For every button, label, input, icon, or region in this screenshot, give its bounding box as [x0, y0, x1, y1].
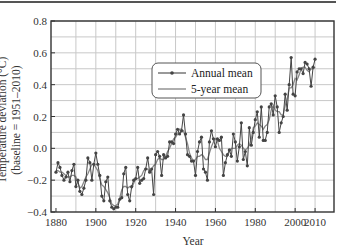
annual-mean-point: [220, 136, 223, 139]
annual-mean-point: [282, 115, 285, 118]
annual-mean-point: [66, 171, 69, 174]
annual-mean-point: [236, 159, 239, 162]
annual-mean-point: [98, 174, 101, 177]
annual-mean-point: [84, 179, 87, 182]
annual-mean-point: [80, 193, 83, 196]
annual-mean-point: [126, 193, 129, 196]
annual-mean-point: [246, 164, 249, 167]
annual-mean-point: [311, 66, 314, 69]
annual-mean-point: [180, 129, 183, 132]
annual-mean-point: [136, 166, 139, 169]
annual-mean-point: [92, 163, 95, 166]
annual-mean-point: [88, 161, 91, 164]
annual-mean-point: [138, 182, 141, 185]
y-tick-label: 0.0: [33, 142, 47, 154]
annual-mean-point: [156, 150, 159, 153]
legend-annual-label: Annual mean: [191, 67, 253, 79]
x-tick-label: 1940: [165, 216, 188, 228]
annual-mean-point: [134, 177, 137, 180]
y-tick-label: 0.4: [33, 79, 47, 91]
annual-mean-point: [280, 121, 283, 124]
annual-mean-point: [198, 140, 201, 143]
annual-mean-point: [146, 156, 149, 159]
annual-mean-point: [176, 128, 179, 131]
annual-mean-point: [188, 155, 191, 158]
annual-mean-point: [54, 171, 57, 174]
x-tick-label: 1960: [204, 216, 227, 228]
x-axis-title: Year: [182, 235, 203, 247]
annual-mean-point: [250, 144, 253, 147]
annual-mean-point: [204, 171, 207, 174]
annual-mean-point: [305, 62, 308, 65]
annual-mean-point: [300, 67, 303, 70]
annual-mean-point: [72, 163, 75, 166]
annual-mean-point: [160, 174, 163, 177]
annual-mean-point: [202, 167, 205, 170]
annual-mean-point: [76, 179, 79, 182]
annual-mean-point: [78, 190, 81, 193]
annual-mean-point: [122, 172, 125, 175]
legend-annual-marker-icon: [170, 71, 174, 75]
annual-mean-point: [94, 152, 97, 155]
annual-mean-point: [296, 70, 299, 73]
annual-mean-point: [178, 132, 181, 135]
annual-mean-point: [288, 83, 291, 86]
legend: Annual mean 5-year mean: [152, 63, 261, 98]
annual-mean-point: [116, 206, 119, 209]
annual-mean-point: [104, 180, 107, 183]
y-axis-title: Temperature deviation (°C): [0, 57, 9, 184]
annual-mean-point: [172, 142, 175, 145]
annual-mean-point: [206, 179, 209, 182]
annual-mean-point: [272, 113, 275, 116]
annual-mean-point: [158, 155, 161, 158]
annual-mean-point: [86, 156, 89, 159]
annual-mean-point: [128, 199, 131, 202]
annual-mean-point: [240, 121, 243, 124]
annual-mean-point: [106, 175, 109, 178]
annual-mean-point: [58, 166, 61, 169]
annual-mean-point: [148, 171, 151, 174]
annual-mean-point: [302, 72, 305, 75]
annual-mean-point: [124, 166, 127, 169]
annual-mean-point: [232, 132, 235, 135]
annual-mean-point: [196, 150, 199, 153]
annual-mean-point: [307, 67, 310, 70]
annual-mean-point: [62, 179, 65, 182]
annual-mean-point: [218, 139, 221, 142]
annual-mean-point: [313, 58, 316, 61]
annual-mean-point: [256, 110, 259, 113]
annual-mean-point: [258, 136, 261, 139]
annual-mean-point: [200, 136, 203, 139]
annual-mean-point: [150, 167, 153, 170]
annual-mean-point: [226, 153, 229, 156]
annual-mean-point: [252, 131, 255, 134]
annual-mean-point: [108, 199, 111, 202]
x-tick-label: 1880: [45, 216, 68, 228]
annual-mean-point: [192, 159, 195, 162]
annual-mean-point: [264, 139, 267, 142]
annual-mean-point: [74, 185, 77, 188]
annual-mean-point: [130, 185, 133, 188]
annual-mean-point: [238, 145, 241, 148]
annual-mean-point: [82, 187, 85, 190]
annual-mean-point: [284, 93, 287, 96]
annual-mean-point: [68, 180, 71, 183]
annual-mean-point: [260, 105, 263, 108]
x-tick-label: 1900: [85, 216, 108, 228]
annual-mean-point: [274, 94, 277, 97]
annual-mean-point: [244, 150, 247, 153]
annual-mean-point: [174, 132, 177, 135]
annual-mean-point: [90, 179, 93, 182]
annual-mean-point: [120, 196, 123, 199]
temperature-chart: 18801900192019401960198020002010 −0.4−0.…: [0, 0, 353, 252]
annual-mean-point: [290, 56, 293, 59]
annual-mean-point: [162, 153, 165, 156]
legend-5yr-label: 5-year mean: [191, 83, 248, 96]
annual-mean-point: [294, 94, 297, 97]
annual-mean-point: [144, 167, 147, 170]
annual-mean-point: [270, 102, 273, 105]
x-tick-label: 1920: [125, 216, 148, 228]
annual-mean-point: [152, 193, 155, 196]
y-tick-label: 0.6: [33, 47, 47, 59]
annual-mean-point: [242, 158, 245, 161]
